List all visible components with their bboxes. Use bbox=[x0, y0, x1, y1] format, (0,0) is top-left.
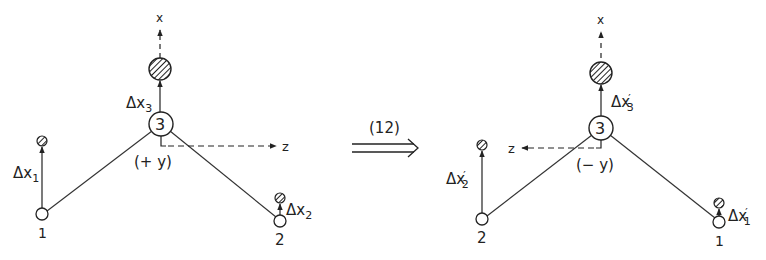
displaced-atom-1-prime-icon bbox=[714, 198, 724, 208]
atom-2-icon bbox=[274, 215, 286, 227]
transform-arrow: (12) bbox=[352, 119, 418, 157]
z-axis-corner bbox=[161, 136, 166, 146]
displaced-atom-2-icon bbox=[275, 193, 285, 203]
atom-3-prime-label: 3 bbox=[595, 119, 605, 138]
atom-1-prime-icon bbox=[713, 216, 725, 228]
x-axis-label: x bbox=[156, 11, 163, 25]
bond-3-1 bbox=[47, 131, 152, 211]
atom-2-label: 2 bbox=[275, 231, 285, 249]
z-axis-label-prime: z bbox=[508, 141, 515, 156]
atom-1-label: 1 bbox=[38, 225, 47, 241]
atom-3-label: 3 bbox=[155, 115, 165, 134]
left-configuration: x Δx3 3 z (+ y) 1 Δx1 2 Δx2 bbox=[13, 11, 312, 249]
z-axis-corner-prime bbox=[596, 140, 601, 148]
atom-2-prime-label: 2 bbox=[477, 229, 487, 247]
displaced-atom-3-prime-icon bbox=[590, 62, 612, 84]
displacement-label-2-prime: Δx′2 bbox=[446, 169, 469, 191]
symmetry-diagram: x Δx3 3 z (+ y) 1 Δx1 2 Δx2 (12) bbox=[0, 0, 766, 260]
displaced-atom-2-prime-icon bbox=[477, 140, 487, 150]
atom-1-icon bbox=[36, 208, 48, 220]
double-arrow-head-icon bbox=[408, 139, 418, 157]
z-axis-label: z bbox=[282, 139, 289, 154]
displacement-label-1-prime: Δx′1 bbox=[728, 206, 751, 228]
displaced-atom-3-icon bbox=[149, 58, 171, 80]
displaced-atom-1-icon bbox=[37, 136, 47, 146]
atom-1-prime-label: 1 bbox=[715, 233, 724, 249]
bond-3-1-prime bbox=[610, 135, 715, 218]
y-axis-label: (+ y) bbox=[134, 153, 172, 171]
bond-3-2 bbox=[170, 131, 276, 217]
y-axis-label-prime: (− y) bbox=[576, 156, 614, 174]
displacement-label-2: Δx2 bbox=[286, 201, 312, 222]
x-axis-label-prime: x bbox=[597, 13, 604, 27]
displacement-label-3-prime: Δx′3 bbox=[611, 92, 634, 114]
displacement-label-3: Δx3 bbox=[126, 94, 152, 115]
right-configuration: x Δx′3 3 z (− y) 2 Δx′2 1 Δx′1 bbox=[446, 13, 751, 249]
transform-label: (12) bbox=[369, 119, 400, 137]
displacement-label-1: Δx1 bbox=[13, 164, 39, 185]
atom-2-prime-icon bbox=[476, 213, 488, 225]
bond-3-2-prime bbox=[487, 135, 592, 216]
